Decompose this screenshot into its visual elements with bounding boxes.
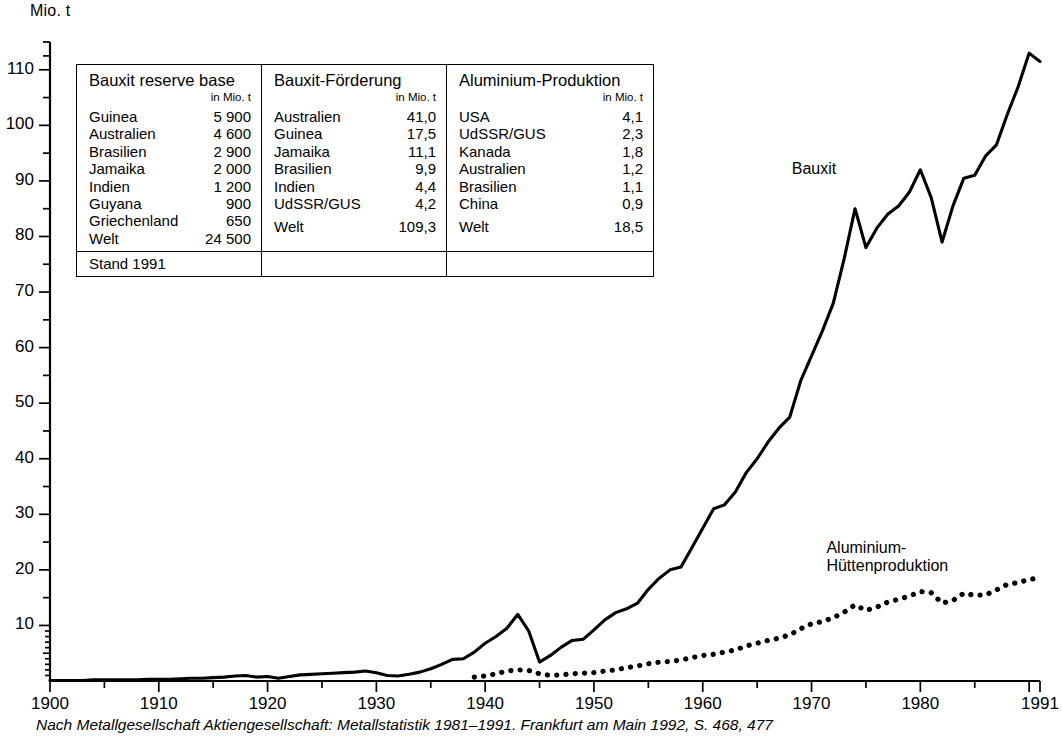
row-label: Kanada bbox=[459, 143, 511, 160]
table-row-total: Welt18,5 bbox=[459, 218, 643, 235]
row-value: 4,4 bbox=[415, 178, 436, 195]
table-row: Australien41,0 bbox=[274, 108, 436, 125]
series-line-aluminium bbox=[474, 578, 1040, 677]
y-axis-tick-label: 50 bbox=[0, 392, 34, 412]
table-row: Guyana900 bbox=[89, 195, 251, 212]
y-axis-tick-label: 100 bbox=[0, 114, 34, 134]
y-axis-tick-label: 60 bbox=[0, 337, 34, 357]
row-label: Griechenland bbox=[89, 212, 178, 229]
total-label: Welt bbox=[459, 218, 489, 235]
chart-page: Mio. t Bauxit reserve base in Mio. t Gui… bbox=[0, 0, 1062, 742]
table-row: Brasilien9,9 bbox=[274, 160, 436, 177]
total-value: 18,5 bbox=[614, 218, 643, 235]
row-value: 1,2 bbox=[622, 160, 643, 177]
table-row: Griechenland650 bbox=[89, 212, 251, 229]
row-label: Indien bbox=[274, 178, 315, 195]
table-row: Jamaika11,1 bbox=[274, 143, 436, 160]
column-unit: in Mio. t bbox=[274, 91, 436, 103]
x-axis-tick-label: 1900 bbox=[10, 694, 90, 714]
x-axis-tick-label: 1920 bbox=[228, 694, 308, 714]
row-label: Guinea bbox=[89, 108, 137, 125]
y-axis-tick-label: 70 bbox=[0, 281, 34, 301]
row-label: Australien bbox=[274, 108, 341, 125]
row-label: USA bbox=[459, 108, 490, 125]
x-axis-tick-label: 1980 bbox=[880, 694, 960, 714]
table-row-total: Welt109,3 bbox=[274, 218, 436, 235]
y-axis-tick-label: 110 bbox=[0, 59, 34, 79]
row-label: Brasilien bbox=[459, 178, 517, 195]
table-footer: Stand 1991 bbox=[77, 251, 653, 276]
row-label: Australien bbox=[459, 160, 526, 177]
footer-cell-empty bbox=[447, 252, 653, 276]
x-axis-tick-label: 1950 bbox=[554, 694, 634, 714]
table-row: Brasilien2 900 bbox=[89, 143, 251, 160]
table-row: Guinea17,5 bbox=[274, 125, 436, 142]
footer-note: Stand 1991 bbox=[77, 252, 262, 276]
x-axis-tick-label: 1960 bbox=[663, 694, 743, 714]
statistics-table: Bauxit reserve base in Mio. t Guinea5 90… bbox=[76, 64, 654, 277]
table-row: Indien1 200 bbox=[89, 178, 251, 195]
table-columns: Bauxit reserve base in Mio. t Guinea5 90… bbox=[77, 65, 653, 251]
row-label: Australien bbox=[89, 125, 156, 142]
row-label: UdSSR/GUS bbox=[459, 125, 546, 142]
table-row: China0,9 bbox=[459, 195, 643, 212]
row-label: China bbox=[459, 195, 498, 212]
row-value: 1,1 bbox=[622, 178, 643, 195]
row-value: 2,3 bbox=[622, 125, 643, 142]
row-label: UdSSR/GUS bbox=[274, 195, 361, 212]
total-value: 24 500 bbox=[205, 230, 251, 247]
row-value: 2 000 bbox=[213, 160, 251, 177]
row-value: 9,9 bbox=[415, 160, 436, 177]
table-row: Australien1,2 bbox=[459, 160, 643, 177]
table-column-reserves: Bauxit reserve base in Mio. t Guinea5 90… bbox=[77, 65, 262, 251]
footer-cell-empty bbox=[262, 252, 447, 276]
table-column-production: Bauxit-Förderung in Mio. t Australien41,… bbox=[262, 65, 447, 251]
series-label-aluminium: Aluminium- Hüttenproduktion bbox=[826, 539, 948, 575]
table-row: Guinea5 900 bbox=[89, 108, 251, 125]
total-label: Welt bbox=[89, 230, 119, 247]
table-column-aluminium: Aluminium-Produktion in Mio. t USA4,1 Ud… bbox=[447, 65, 653, 251]
row-value: 11,1 bbox=[408, 143, 436, 160]
row-label: Brasilien bbox=[274, 160, 332, 177]
table-row: Brasilien1,1 bbox=[459, 178, 643, 195]
row-value: 41,0 bbox=[407, 108, 436, 125]
row-value: 4,1 bbox=[622, 108, 643, 125]
y-axis-tick-label: 20 bbox=[0, 559, 34, 579]
row-value: 4,2 bbox=[415, 195, 436, 212]
row-label: Brasilien bbox=[89, 143, 147, 160]
x-axis-tick-label: 1930 bbox=[336, 694, 416, 714]
y-axis-tick-label: 90 bbox=[0, 170, 34, 190]
row-value: 17,5 bbox=[407, 125, 436, 142]
table-row: Jamaika2 000 bbox=[89, 160, 251, 177]
row-label: Jamaika bbox=[274, 143, 330, 160]
column-header: Bauxit-Förderung bbox=[274, 71, 436, 90]
y-axis-tick-label: 40 bbox=[0, 448, 34, 468]
column-header: Bauxit reserve base bbox=[89, 71, 251, 90]
source-caption: Nach Metallgesellschaft Aktiengesellscha… bbox=[36, 716, 773, 734]
table-row: USA4,1 bbox=[459, 108, 643, 125]
x-axis-tick-label: 1940 bbox=[445, 694, 525, 714]
row-value: 1 200 bbox=[213, 178, 251, 195]
column-unit: in Mio. t bbox=[459, 91, 643, 103]
y-axis-tick-label: 30 bbox=[0, 503, 34, 523]
row-value: 5 900 bbox=[213, 108, 251, 125]
row-value: 4 600 bbox=[213, 125, 251, 142]
series-label-bauxit: Bauxit bbox=[792, 160, 836, 178]
row-value: 650 bbox=[226, 212, 251, 229]
row-label: Guinea bbox=[274, 125, 322, 142]
x-axis-tick-label: 1970 bbox=[772, 694, 852, 714]
table-row: UdSSR/GUS4,2 bbox=[274, 195, 436, 212]
column-header: Aluminium-Produktion bbox=[459, 71, 643, 90]
row-value: 900 bbox=[226, 195, 251, 212]
y-axis-tick-label: 10 bbox=[0, 614, 34, 634]
row-value: 0,9 bbox=[622, 195, 643, 212]
x-axis-tick-label: 1991 bbox=[1000, 694, 1062, 714]
column-unit: in Mio. t bbox=[89, 91, 251, 103]
row-label: Guyana bbox=[89, 195, 142, 212]
total-value: 109,3 bbox=[398, 218, 436, 235]
table-row: Indien4,4 bbox=[274, 178, 436, 195]
table-row: Kanada1,8 bbox=[459, 143, 643, 160]
total-label: Welt bbox=[274, 218, 304, 235]
x-axis-tick-label: 1910 bbox=[119, 694, 199, 714]
row-value: 1,8 bbox=[622, 143, 643, 160]
